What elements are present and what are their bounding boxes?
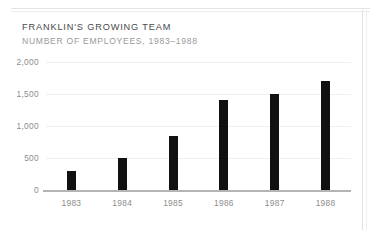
- x-axis-tick-label: 1987: [265, 198, 285, 208]
- y-axis-tick-label: 500: [24, 153, 39, 163]
- chart-title: FRANKLIN'S GROWING TEAM: [22, 22, 171, 32]
- x-axis-tick-label: 1983: [61, 198, 81, 208]
- page-top-rule-upper: [11, 8, 370, 9]
- gridline-500: [46, 158, 351, 159]
- y-axis-tick-label: 0: [34, 185, 39, 195]
- x-axis-tick-label: 1988: [316, 198, 336, 208]
- chart-page: FRANKLIN'S GROWING TEAM NUMBER OF EMPLOY…: [0, 0, 380, 230]
- page-top-rule-lower: [11, 11, 370, 12]
- chart-subtitle: NUMBER OF EMPLOYEES, 1983–1988: [22, 36, 198, 46]
- y-axis-tick-label: 1,000: [17, 121, 39, 131]
- gridline-1500: [46, 94, 351, 95]
- bar-1985: [169, 136, 178, 190]
- bar-1983: [67, 171, 76, 190]
- x-axis-tick-label: 1984: [112, 198, 132, 208]
- bar-1986: [219, 100, 228, 190]
- bar-1988: [321, 81, 330, 190]
- gridline-1000: [46, 126, 351, 127]
- page-right-edge-inner: [366, 10, 367, 230]
- bar-1984: [118, 158, 127, 190]
- y-axis-tick-label: 2,000: [17, 57, 39, 67]
- x-axis-baseline: [43, 190, 351, 192]
- bar-1987: [270, 94, 279, 190]
- x-axis-tick-label: 1985: [163, 198, 183, 208]
- page-right-edge-outer: [362, 10, 363, 230]
- gridline-2000: [46, 62, 351, 63]
- plot-area: 05001,0001,5002,000198319841985198619871…: [46, 62, 351, 190]
- x-axis-tick-label: 1986: [214, 198, 234, 208]
- y-axis-tick-label: 1,500: [17, 89, 39, 99]
